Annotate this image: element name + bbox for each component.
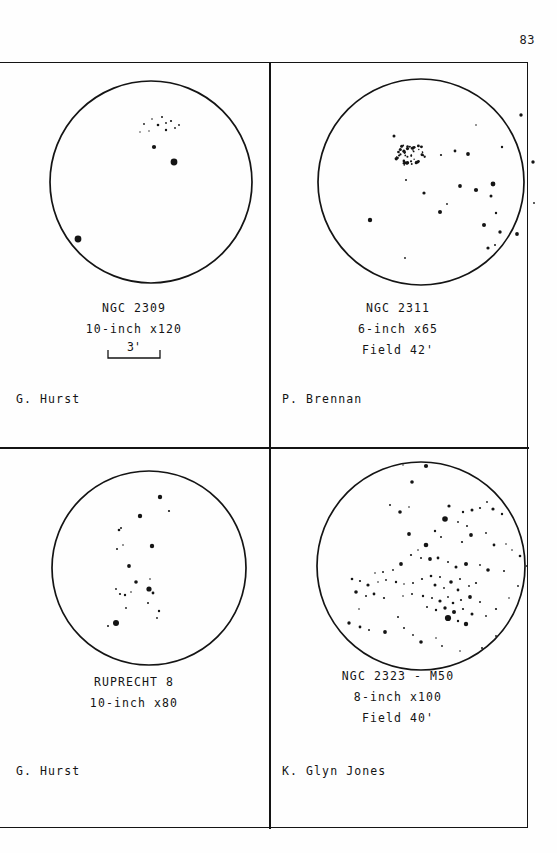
cluster-star-dot: [418, 149, 419, 150]
star-dot: [421, 578, 423, 580]
star-dot: [443, 606, 446, 609]
star-dot: [505, 543, 507, 545]
star-dot: [148, 130, 149, 131]
star-dot: [442, 516, 448, 522]
star-dot: [395, 581, 397, 583]
star-dot: [408, 506, 410, 508]
star-dot: [399, 562, 403, 566]
star-dot: [434, 530, 436, 532]
star-dot: [410, 480, 414, 484]
star-dot: [124, 594, 126, 596]
star-dot: [397, 616, 399, 618]
star-dot: [515, 232, 519, 236]
star-dot: [441, 645, 443, 647]
star-dot: [434, 584, 437, 587]
star-dot: [526, 565, 528, 567]
star-dot: [412, 582, 414, 584]
star-dot: [113, 620, 119, 626]
star-dot: [503, 570, 505, 572]
star-dot: [354, 590, 358, 594]
cluster-star-dot: [404, 153, 406, 155]
star-dot: [149, 578, 151, 580]
star-dot: [426, 606, 428, 608]
cluster-star-dot: [398, 154, 400, 156]
star-dot: [486, 568, 490, 572]
star-dot: [377, 581, 379, 583]
caption-instrument-ngc-2309: 10-inch x120: [0, 319, 268, 340]
cluster-star-dot: [422, 151, 424, 153]
cluster-star-dot: [422, 154, 424, 156]
star-dot: [147, 602, 149, 604]
star-dot: [466, 152, 470, 156]
field-of-view-circle: [50, 81, 252, 283]
star-dot: [468, 595, 472, 599]
observer-ngc-2311: P. Brennan: [282, 392, 362, 406]
star-dot: [174, 127, 176, 129]
star-dot: [152, 592, 155, 595]
star-dot: [498, 230, 501, 233]
cluster-star-dot: [400, 145, 403, 148]
star-dot: [485, 615, 487, 617]
eyepiece-field-ngc-2309: [16, 62, 266, 307]
star-dot: [447, 561, 449, 563]
star-dot: [462, 608, 464, 610]
star-dot: [494, 244, 496, 246]
star-dot: [119, 593, 121, 595]
star-dot: [424, 543, 429, 548]
star-dot: [452, 610, 456, 614]
star-dot: [157, 124, 160, 127]
star-dot: [130, 591, 132, 593]
cluster-star-dot: [406, 156, 408, 158]
cluster-star-dot: [403, 164, 405, 166]
star-dot: [479, 564, 481, 566]
star-dot: [358, 608, 360, 610]
star-dot: [158, 495, 162, 499]
cluster-blob: [395, 144, 426, 165]
star-dot: [435, 609, 437, 611]
star-dot: [422, 191, 425, 194]
star-dot: [170, 120, 172, 122]
star-dot: [519, 113, 522, 116]
star-dot: [471, 613, 474, 616]
star-dot: [447, 596, 449, 598]
star-dot: [122, 544, 124, 546]
star-dot: [443, 587, 445, 589]
panel-ngc-2323-m50: NGC 2323 - M50 8-inch x100 Field 40' K. …: [268, 446, 528, 828]
star-dot: [168, 510, 170, 512]
star-dot: [438, 210, 442, 214]
field-of-view-circle: [52, 471, 246, 665]
star-dot: [165, 129, 167, 131]
star-dot: [134, 580, 138, 584]
star-dot: [430, 575, 433, 578]
star-dot: [440, 536, 442, 538]
star-dot: [156, 617, 158, 619]
star-dot: [152, 145, 156, 149]
cluster-star-dot: [410, 160, 412, 162]
caption-object-ngc-2311: NGC 2311: [268, 298, 528, 319]
star-dot: [171, 159, 178, 166]
star-dot: [347, 621, 350, 624]
star-dot: [471, 509, 474, 512]
star-dot: [404, 257, 406, 259]
star-dot: [486, 501, 488, 503]
star-dot: [447, 504, 450, 507]
star-dot: [458, 184, 462, 188]
star-dot: [469, 533, 473, 537]
star-dot: [383, 630, 387, 634]
star-dot: [393, 135, 396, 138]
star-dot: [75, 236, 82, 243]
eyepiece-field-ngc-2323-m50: [290, 446, 540, 686]
sky-chart-ngc-2309: [16, 62, 266, 307]
star-dot: [468, 585, 470, 587]
star-dot: [491, 507, 494, 510]
star-dot: [474, 188, 478, 192]
observer-ngc-2309: G. Hurst: [16, 392, 80, 406]
observer-ruprecht-8: G. Hurst: [16, 764, 80, 778]
star-dot: [519, 555, 522, 558]
star-dot: [392, 569, 394, 571]
star-dot: [146, 586, 151, 591]
star-dot: [359, 580, 361, 582]
star-dot: [475, 582, 477, 584]
star-dot: [454, 150, 457, 153]
star-dot: [115, 588, 117, 590]
